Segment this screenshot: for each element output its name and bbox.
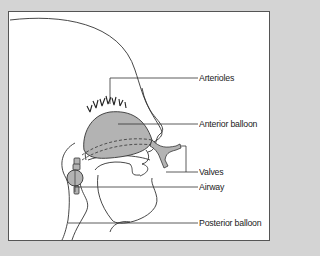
tongue <box>98 175 157 223</box>
label-valves: Valves <box>199 166 223 177</box>
pharynx-wall <box>62 143 75 240</box>
label-anterior-balloon: Anterior balloon <box>199 118 257 129</box>
label-arterioles: Arterioles <box>199 72 234 83</box>
arterioles-vessels <box>87 96 126 112</box>
valves <box>150 140 181 168</box>
label-airway: Airway <box>199 181 224 192</box>
anterior-balloon <box>84 112 152 159</box>
label-posterior-balloon: Posterior balloon <box>199 217 261 228</box>
